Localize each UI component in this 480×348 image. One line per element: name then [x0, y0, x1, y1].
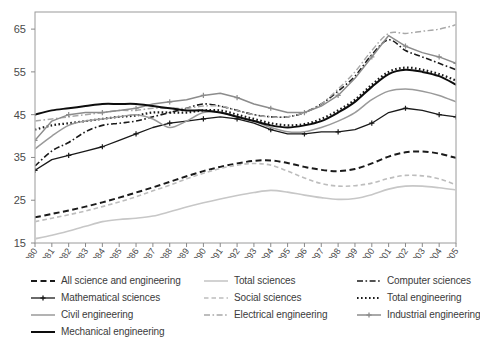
legend-item-label: Total sciences — [234, 275, 295, 286]
x-tick-label: 1999 — [340, 246, 360, 258]
legend-item[interactable]: Total sciences — [203, 272, 353, 289]
svg-text:1981: 1981 — [37, 246, 57, 258]
legend-line-swatch-icon — [30, 326, 56, 338]
svg-text:1993: 1993 — [239, 246, 259, 258]
plot-frame — [35, 12, 456, 243]
y-tick-label: 35 — [14, 151, 26, 163]
legend-item-label: Total engineering — [387, 292, 461, 303]
y-tick-label: 25 — [14, 194, 26, 206]
svg-text:1995: 1995 — [273, 246, 293, 258]
legend-item[interactable]: Mechanical engineering — [30, 323, 200, 340]
y-tick-label: 15 — [14, 237, 26, 249]
legend-item[interactable]: Computer sciences — [356, 272, 466, 289]
legend-item[interactable]: All science and engineering — [30, 272, 200, 289]
legend-column-1: All science and engineeringMathematical … — [30, 272, 200, 340]
line-chart: 1525354555651980198119821983198419851986… — [0, 0, 463, 258]
legend-item[interactable]: Industrial engineering — [356, 306, 466, 323]
svg-text:1989: 1989 — [172, 246, 192, 258]
legend-item-label: Computer sciences — [387, 275, 471, 286]
chart-legend: All science and engineeringMathematical … — [0, 272, 463, 348]
legend-line-swatch-icon — [30, 275, 56, 287]
x-tick-label: 1984 — [87, 246, 107, 258]
x-tick-label: 1991 — [205, 246, 225, 258]
legend-line-swatch-icon — [356, 309, 382, 321]
svg-text:1982: 1982 — [54, 246, 74, 258]
legend-line-swatch-icon — [30, 292, 56, 304]
svg-text:2000: 2000 — [357, 246, 377, 258]
legend-item[interactable]: Total engineering — [356, 289, 466, 306]
svg-text:2004: 2004 — [424, 246, 444, 258]
x-tick-label: 2000 — [357, 246, 377, 258]
svg-text:1984: 1984 — [87, 246, 107, 258]
legend-line-swatch-icon — [203, 275, 229, 287]
x-tick-label: 1983 — [70, 246, 90, 258]
x-tick-label: 1993 — [239, 246, 259, 258]
x-tick-label: 2005 — [441, 246, 461, 258]
x-tick-label: 1986 — [121, 246, 141, 258]
legend-item[interactable]: Civil engineering — [30, 306, 200, 323]
legend-item-label: All science and engineering — [61, 275, 181, 286]
legend-item-label: Mathematical sciences — [61, 292, 160, 303]
legend-line-swatch-icon — [203, 292, 229, 304]
x-tick-label: 1988 — [155, 246, 175, 258]
svg-text:1986: 1986 — [121, 246, 141, 258]
y-tick-label: 55 — [14, 66, 26, 78]
svg-text:1988: 1988 — [155, 246, 175, 258]
y-tick-label: 65 — [14, 23, 26, 35]
legend-column-3: Computer sciencesTotal engineeringIndust… — [356, 272, 466, 323]
svg-text:2001: 2001 — [374, 246, 394, 258]
x-tick-label: 2002 — [390, 246, 410, 258]
x-tick-label: 1998 — [323, 246, 343, 258]
x-tick-label: 1987 — [138, 246, 158, 258]
svg-text:1991: 1991 — [205, 246, 225, 258]
svg-text:2003: 2003 — [407, 246, 427, 258]
svg-text:1992: 1992 — [222, 246, 242, 258]
svg-text:1983: 1983 — [70, 246, 90, 258]
x-tick-label: 1985 — [104, 246, 124, 258]
svg-text:1994: 1994 — [256, 246, 276, 258]
chart-plot-area: 1525354555651980198119821983198419851986… — [0, 0, 463, 258]
legend-item-label: Social sciences — [234, 292, 301, 303]
x-tick-label: 2003 — [407, 246, 427, 258]
legend-line-swatch-icon — [356, 275, 382, 287]
legend-item-label: Industrial engineering — [387, 309, 480, 320]
x-tick-label: 1996 — [289, 246, 309, 258]
legend-line-swatch-icon — [30, 309, 56, 321]
x-tick-label: 2001 — [374, 246, 394, 258]
legend-line-swatch-icon — [356, 292, 382, 304]
x-tick-label: 1989 — [172, 246, 192, 258]
svg-text:2002: 2002 — [390, 246, 410, 258]
x-tick-label: 1982 — [54, 246, 74, 258]
svg-text:2005: 2005 — [441, 246, 461, 258]
svg-text:1987: 1987 — [138, 246, 158, 258]
x-tick-label: 2004 — [424, 246, 444, 258]
x-tick-label: 1994 — [256, 246, 276, 258]
svg-text:1997: 1997 — [306, 246, 326, 258]
legend-item[interactable]: Electrical engineering — [203, 306, 353, 323]
svg-text:1990: 1990 — [188, 246, 208, 258]
legend-item-label: Mechanical engineering — [61, 326, 164, 337]
legend-item[interactable]: Social sciences — [203, 289, 353, 306]
legend-column-2: Total sciencesSocial sciencesElectrical … — [203, 272, 353, 323]
svg-text:1999: 1999 — [340, 246, 360, 258]
svg-text:1996: 1996 — [289, 246, 309, 258]
legend-line-swatch-icon — [203, 309, 229, 321]
y-tick-label: 45 — [14, 109, 26, 121]
x-tick-label: 1995 — [273, 246, 293, 258]
x-tick-label: 1997 — [306, 246, 326, 258]
x-tick-label: 1981 — [37, 246, 57, 258]
legend-item[interactable]: Mathematical sciences — [30, 289, 200, 306]
legend-item-label: Electrical engineering — [234, 309, 327, 320]
svg-text:1998: 1998 — [323, 246, 343, 258]
svg-text:1985: 1985 — [104, 246, 124, 258]
x-tick-label: 1992 — [222, 246, 242, 258]
legend-item-label: Civil engineering — [61, 309, 133, 320]
x-tick-label: 1990 — [188, 246, 208, 258]
